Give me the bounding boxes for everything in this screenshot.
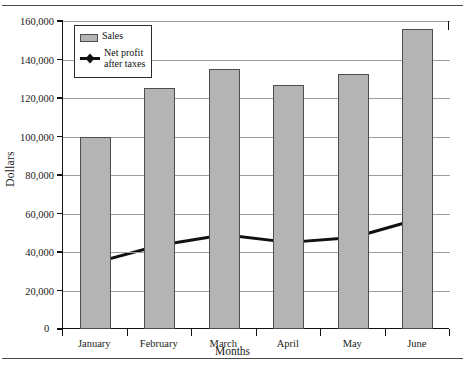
- bar-sales: [273, 85, 304, 329]
- legend-item-sales: Sales: [80, 31, 123, 42]
- y-axis-tick: [57, 251, 63, 252]
- y-axis-tick-label: 120,000: [20, 93, 54, 104]
- x-axis-tick: [320, 329, 321, 336]
- y-axis-tick-label: 20,000: [25, 285, 54, 296]
- bottom-divider-rule: [2, 358, 463, 359]
- gridline: [63, 98, 450, 99]
- bar-sales: [209, 69, 240, 329]
- legend-label-net-profit: Net profit after taxes: [104, 48, 145, 69]
- y-axis-tick: [57, 136, 63, 137]
- chart-figure: 20,00040,00060,00080,000100,000120,00014…: [0, 0, 465, 365]
- legend-item-net-profit: Net profit after taxes: [80, 48, 145, 69]
- bar-swatch-icon: [80, 34, 98, 42]
- legend-label-net-profit-line1: Net profit: [104, 47, 143, 58]
- x-axis-tick: [385, 329, 386, 336]
- bar-sales: [402, 29, 433, 329]
- x-axis-title: Months: [0, 345, 465, 357]
- bar-sales: [338, 74, 369, 329]
- gridline: [63, 175, 450, 176]
- gridline: [63, 214, 450, 215]
- y-axis-tick: [57, 290, 63, 291]
- y-axis-tick: [57, 59, 63, 60]
- plot-right-edge-tick: [448, 21, 449, 30]
- y-axis-tick-label: 140,000: [20, 54, 54, 65]
- y-axis-tick-label: 160,000: [20, 16, 54, 27]
- y-axis-tick: [57, 213, 63, 214]
- gridline: [63, 291, 450, 292]
- legend-label-sales: Sales: [102, 31, 123, 42]
- y-axis-tick: [57, 174, 63, 175]
- x-axis-tick: [62, 329, 63, 336]
- gridline: [63, 137, 450, 138]
- y-axis-tick-label: 40,000: [25, 247, 54, 258]
- y-axis-title: Dollars: [4, 151, 16, 186]
- x-axis-tick: [449, 329, 450, 336]
- gridline: [63, 252, 450, 253]
- legend-label-net-profit-line2: after taxes: [104, 58, 145, 69]
- y-axis-tick-label: 60,000: [25, 208, 54, 219]
- bar-sales: [80, 137, 111, 330]
- y-axis-tick-label: 80,000: [25, 170, 54, 181]
- top-divider-rule: [2, 5, 463, 6]
- y-axis-tick: [57, 97, 63, 98]
- gridline: [63, 21, 450, 22]
- x-axis-tick: [191, 329, 192, 336]
- y-axis-zero-label: 0: [44, 323, 49, 334]
- bar-sales: [144, 88, 175, 329]
- y-axis-tick-label: 100,000: [20, 131, 54, 142]
- chart-legend: Sales Net profit after taxes: [74, 25, 152, 78]
- y-axis-tick: [57, 20, 63, 21]
- x-axis-tick: [256, 329, 257, 336]
- x-axis-tick: [127, 329, 128, 336]
- line-marker-swatch-icon: [80, 50, 100, 61]
